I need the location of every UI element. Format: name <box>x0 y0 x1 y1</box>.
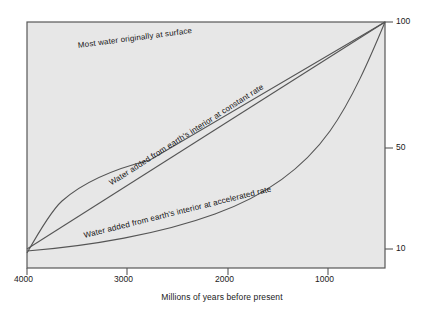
chart-plot-area <box>0 0 444 316</box>
y-tick-label-50: 50 <box>396 142 405 152</box>
x-tick-label-3000: 3000 <box>114 274 133 284</box>
plot-background <box>27 22 385 268</box>
chart-figure: 4000 3000 2000 1000 100 50 10 Millions o… <box>0 0 444 316</box>
x-axis-title: Millions of years before present <box>0 292 444 302</box>
x-axis-ticks <box>27 268 328 275</box>
x-tick-label-2000: 2000 <box>215 274 234 284</box>
y-axis-title: Percent present ocean volume <box>0 98 10 316</box>
x-tick-label-4000: 4000 <box>14 274 33 284</box>
y-axis-title-text: Percent present ocean volume <box>0 98 10 316</box>
x-tick-label-1000: 1000 <box>315 274 334 284</box>
y-axis-ticks <box>385 22 393 249</box>
y-tick-label-10: 10 <box>396 243 405 253</box>
y-tick-label-100: 100 <box>396 16 410 26</box>
